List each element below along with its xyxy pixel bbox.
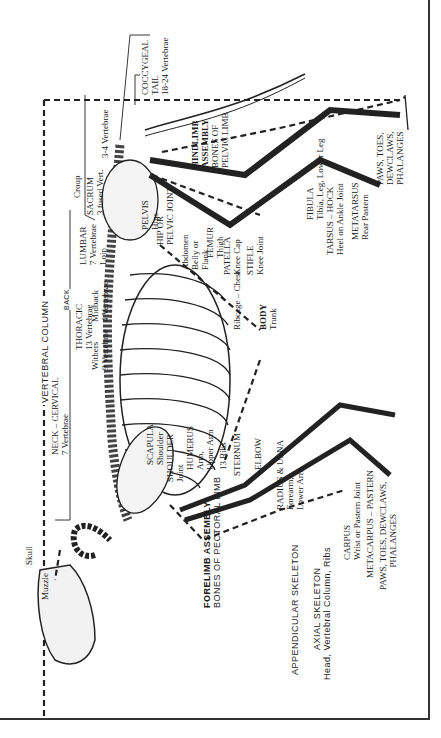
- label-body: BODYTrunk: [258, 304, 278, 330]
- label-patella: PATELLAKnee Cap: [222, 237, 242, 275]
- label-pelvic-limb: BONES OFPELVIC LIMB: [210, 113, 230, 168]
- label-sacrum: SACRUM3 fused Vert.: [85, 169, 105, 215]
- label-skull: Skull: [24, 546, 34, 565]
- label-carpus: CARPUSWrist or Pastern Joint: [342, 482, 362, 560]
- label-appendicular: APPENDICULAR SKELETON: [290, 544, 300, 675]
- label-neck: NECK – CERVICAL7 Vertebrae: [50, 377, 70, 455]
- label-metacarpus: METACARPUS – PASTERN: [365, 470, 375, 578]
- label-sacrum-vertebrae: 3-4 Vertebrae: [100, 109, 110, 158]
- label-vertebral-column: VERTEBRAL COLUMN: [40, 298, 50, 405]
- label-axial: AXIAL SKELETONHead, Vertebral Column, Ri…: [312, 547, 332, 680]
- label-metatarsus: METATARSUSRear Pastern: [350, 182, 370, 240]
- label-coccygeal: COCCYGEALTAIL18-24 Vertebrae: [140, 37, 170, 95]
- label-front-paws: PAWS, TOES, DEWCLAWS, PHALANGES: [378, 482, 398, 590]
- label-humerus: HUMERUSArm,Upper Arm: [185, 426, 215, 470]
- label-scapula: SCAPULAShoulder: [145, 424, 165, 465]
- label-tarsus: TARSUS – HOCKHeel on Ankle Joint: [325, 183, 345, 255]
- label-hip-joint: HIP ORPELVIC JOINT: [155, 187, 175, 245]
- label-shoulder-joint: SHOULDERJoint: [165, 434, 185, 482]
- label-muzzle: Muzzle: [40, 573, 50, 600]
- label-ribcage: Ribcage – Chest: [232, 271, 242, 330]
- label-hindlimb: HINDLIMBASSEMBLY: [190, 119, 210, 168]
- skeleton-drawing: [0, 0, 441, 738]
- label-fibula: FIBULATibia, Leg, Lower Leg: [305, 139, 325, 220]
- label-lumbar: LUMBAR7 VertebraeLoin: [78, 224, 108, 265]
- label-radius-ulna: RADIUS & ULNAForearm,Lower Arm: [275, 440, 305, 510]
- label-rear-paws: PAWS, TOES,DEWCLAWS,PHALANGES: [375, 131, 405, 185]
- label-croup: Croup: [72, 176, 82, 199]
- label-elbow: ELBOW: [253, 438, 263, 470]
- label-withers: Withers9 Vertebrae: [90, 329, 110, 370]
- label-stifle: STIFLEKnee Joint: [245, 236, 265, 275]
- label-ribs: 13 Ribs: [218, 442, 228, 470]
- label-back: BACK: [62, 289, 72, 310]
- label-midback: Midback4 Vertebrae: [90, 281, 110, 322]
- label-forelimb-assembly: FORELIMB ASSEMBLYBONES OF PECTORAL LIMB: [202, 476, 222, 608]
- label-sternum: STERNUM: [232, 433, 242, 476]
